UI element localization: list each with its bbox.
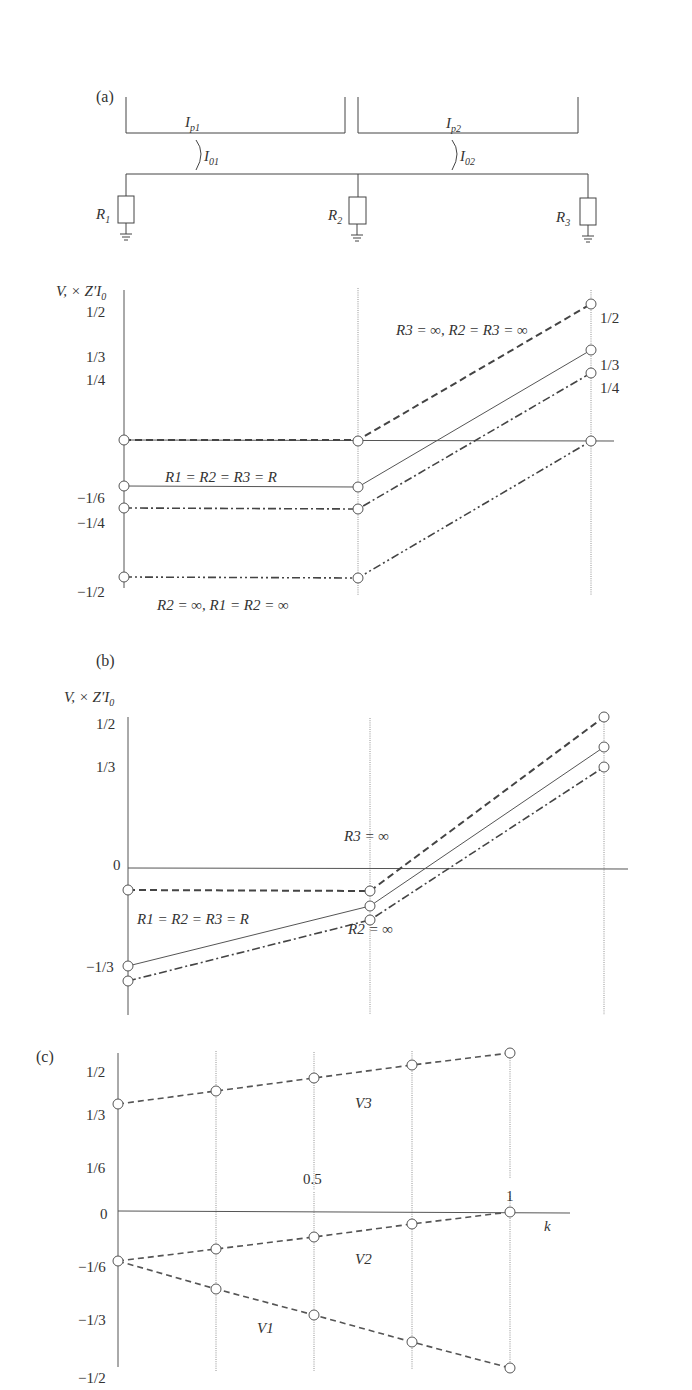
x-axis-c (118, 1211, 570, 1213)
tick-label: −1/6 (78, 1259, 106, 1275)
x-tick-label: 0.5 (303, 1171, 322, 1187)
resistor-label-r1: R1 (95, 206, 110, 225)
resistor-r1 (118, 196, 134, 223)
circuit-diagram: Ip1 Ip2 I01 I02 R1 R2 R3 (95, 97, 596, 242)
tick-label: 1/4 (600, 380, 620, 396)
resistor-label-r3: R3 (555, 209, 570, 228)
y-axis-label-a: V, × Z′I0 (56, 283, 106, 302)
tick-label: −1/6 (77, 490, 105, 506)
series-r2-inf-b (128, 767, 604, 981)
series-label-v3: V3 (355, 1095, 372, 1111)
tick-label: −1/4 (77, 515, 105, 531)
tick-label: 0 (113, 857, 121, 873)
tick-label: 1/2 (600, 310, 619, 326)
annotation-equal-r: R1 = R2 = R3 = R (164, 469, 277, 485)
tick-label: 1/3 (96, 759, 115, 775)
tick-label: 1/3 (86, 349, 105, 365)
coupling-arc-2 (452, 140, 457, 170)
bus-line (126, 174, 588, 198)
tick-label: 1/3 (86, 1107, 105, 1123)
resistor-r2 (349, 197, 366, 224)
resistor-r3 (580, 198, 596, 225)
branch-current-1: I01 (203, 148, 219, 167)
source-bracket-1 (126, 97, 345, 133)
tick-label: −1/3 (78, 1312, 106, 1328)
x-tick-label: 1 (506, 1188, 514, 1204)
series-label-v1: V1 (257, 1320, 274, 1336)
series-equal-r (124, 350, 591, 487)
chart-b: V, × Z′I0 1/2 1/3 0 −1/3 R3 = ∞ R1 = R2 … (64, 689, 628, 1015)
tick-label: 1/3 (600, 357, 619, 373)
annotation-r3-inf: R3 = ∞, R2 = R3 = ∞ (395, 322, 528, 338)
series-label-v2: V2 (355, 1251, 372, 1267)
data-points (123, 712, 609, 986)
zero-line-b (128, 868, 628, 869)
tick-label: 0 (100, 1206, 108, 1222)
figure: (a) Ip1 Ip2 I01 I02 R1 R2 R3 (0, 0, 692, 1390)
source-bracket-2 (358, 97, 578, 133)
source-label-1: Ip1 (184, 114, 200, 133)
ground-icon (582, 225, 594, 242)
tick-label: −1/2 (78, 1370, 106, 1386)
coupling-arc-1 (196, 140, 201, 170)
annotation-equal-r-b: R1 = R2 = R3 = R (136, 911, 249, 927)
zero-line-a (124, 440, 614, 441)
panel-c-label: (c) (36, 1048, 54, 1066)
tick-label: −1/2 (77, 584, 105, 600)
resistor-label-r2: R2 (327, 207, 342, 226)
chart-a: V, × Z′I0 1/2 1/3 1/4 −1/6 −1/4 −1/2 1/2… (56, 283, 620, 613)
tick-label: 1/2 (86, 304, 105, 320)
y-axis-label-b: V, × Z′I0 (64, 689, 114, 708)
annotation-r2-inf: R2 = ∞, R1 = R2 = ∞ (156, 597, 289, 613)
branch-current-2: I02 (459, 148, 475, 167)
tick-label: 1/2 (96, 716, 115, 732)
annotation-r2-inf-b: R2 = ∞ (347, 921, 393, 937)
panel-a-label: (a) (96, 88, 114, 106)
source-label-2: Ip2 (445, 115, 461, 134)
ground-icon (120, 223, 132, 240)
tick-label: 1/2 (86, 1064, 105, 1080)
ground-icon (351, 224, 363, 241)
tick-label: 1/4 (86, 372, 106, 388)
panel-b-label: (b) (96, 652, 115, 670)
tick-label: −1/3 (86, 959, 114, 975)
x-axis-label: k (544, 1218, 551, 1234)
chart-c: 1/2 1/3 1/6 0 −1/6 −1/3 −1/2 0.5 1 k V3 … (78, 1048, 570, 1386)
series-r3-inf-b (128, 717, 604, 891)
annotation-r3-inf-b: R3 = ∞ (343, 828, 389, 844)
tick-label: 1/6 (86, 1160, 106, 1176)
